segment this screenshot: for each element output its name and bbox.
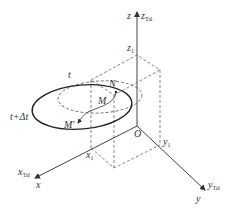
point-m: [115, 91, 117, 93]
x-tal-label: xTal: [17, 166, 30, 178]
z1-label: z1: [126, 42, 134, 54]
y-tal-label: yTal: [207, 179, 220, 191]
coordinate-diagram: z zTal z1 O y1 x1 xTal x yTal y t t+Δt M…: [0, 0, 233, 208]
diagram-figure: z zTal z1 O y1 x1 xTal x yTal y t t+Δt M…: [0, 0, 233, 208]
trajectory-t-dt-solid: [30, 81, 133, 134]
y-axis: [137, 126, 205, 190]
m-label: M: [97, 95, 107, 106]
z-tal-label: zTal: [140, 10, 153, 22]
t-label: t: [68, 69, 71, 80]
n-label: N: [108, 78, 117, 89]
path-m-to-m-prime: [78, 93, 116, 123]
z-axis-label: z: [126, 10, 131, 21]
y-axis-label: y: [195, 193, 201, 204]
projection-box: [91, 55, 160, 168]
origin-label: O: [134, 128, 141, 139]
x1-label: x1: [85, 149, 93, 161]
x-axis-label: x: [35, 179, 41, 190]
t-dt-label: t+Δt: [10, 111, 28, 122]
y1-label: y1: [162, 136, 170, 148]
m-prime-label: M': [63, 119, 75, 130]
